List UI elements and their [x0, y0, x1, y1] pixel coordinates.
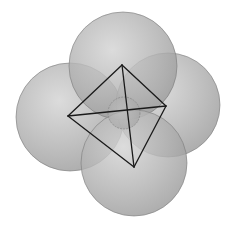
central-sphere-group [108, 97, 140, 129]
central-sphere [108, 97, 140, 129]
tetrahedral-sphere-diagram [0, 0, 234, 230]
